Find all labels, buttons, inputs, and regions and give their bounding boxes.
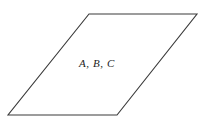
parallelogram-figure: A, B, C [0, 0, 207, 130]
figure-canvas: A, B, C [0, 0, 207, 130]
parallelogram-label: A, B, C [78, 57, 115, 69]
